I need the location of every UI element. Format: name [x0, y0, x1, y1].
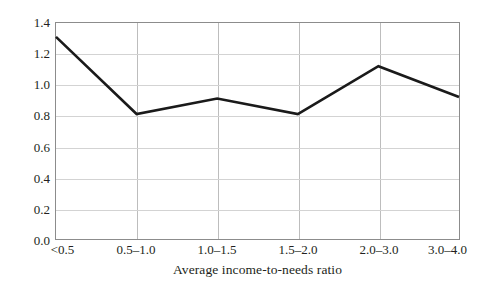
- x-axis-tick-label: 1.0–1.5: [198, 243, 237, 257]
- y-axis-tick-label: 1.4: [6, 16, 50, 29]
- y-axis-tick-label: 1.2: [6, 47, 50, 60]
- y-axis-tick-label: 0.0: [6, 234, 50, 247]
- x-axis-tick-label: 3.0–4.0: [428, 243, 467, 257]
- y-axis-tick-label: 0.8: [6, 109, 50, 122]
- y-axis-tick-label: 0.6: [6, 140, 50, 153]
- x-axis-tick-labels: <0.50.5–1.01.0–1.51.5–2.02.0–3.03.0–4.0: [55, 243, 460, 261]
- y-axis-tick-label: 0.4: [6, 171, 50, 184]
- x-axis-tick-label: 2.0–3.0: [360, 243, 399, 257]
- x-axis-tick-label: 1.5–2.0: [279, 243, 318, 257]
- y-axis-tick-labels: 0.00.20.40.60.81.01.21.4: [0, 22, 50, 240]
- y-axis-tick-label: 1.0: [6, 78, 50, 91]
- x-axis-title: Average income-to-needs ratio: [55, 262, 460, 278]
- y-axis-tick-label: 0.2: [6, 202, 50, 215]
- relative-odds-polyline: [56, 37, 459, 114]
- chart-figure: Relative odds 0.00.20.40.60.81.01.21.4 <…: [0, 0, 497, 288]
- data-series-line: [56, 23, 459, 239]
- x-axis-tick-label: 0.5–1.0: [117, 243, 156, 257]
- x-axis-tick-label: <0.5: [51, 243, 75, 257]
- plot-area: [55, 22, 460, 240]
